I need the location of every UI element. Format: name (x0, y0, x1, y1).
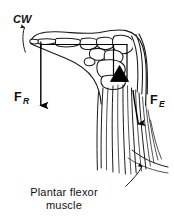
force-effort-label: F E (150, 93, 165, 109)
force-effort-subscript: E (159, 99, 165, 109)
caption-line-2: muscle (46, 199, 82, 211)
rotation-label: CW (13, 13, 33, 25)
force-reaction-subscript: R (23, 96, 30, 106)
rotation-arrow-cw (23, 28, 26, 53)
foot-skeleton-bones (30, 35, 143, 94)
force-reaction-label: F R (14, 90, 30, 106)
caption-leader-line (126, 167, 143, 187)
caption-line-1: Plantar flexor (30, 186, 98, 198)
force-reaction-symbol: F (14, 90, 22, 104)
foot-lever-diagram: CW F R F E Plantar flexor muscle (0, 0, 174, 220)
figure-container: CW F R F E Plantar flexor muscle (0, 0, 174, 220)
force-effort-symbol: F (150, 93, 158, 107)
